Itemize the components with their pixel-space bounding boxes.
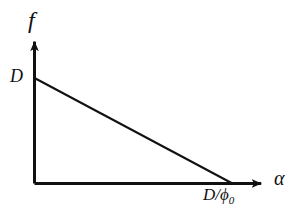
- plot-svg: [0, 0, 300, 220]
- y-axis-label: f: [28, 8, 35, 32]
- phi-symbol: ϕ: [220, 185, 229, 204]
- phi-subscript: 0: [229, 194, 235, 206]
- x-axis-label: α: [274, 168, 285, 188]
- x-intercept-numerator: D/: [203, 185, 220, 204]
- x-intercept-label: D/ϕ0: [203, 186, 234, 206]
- figure-canvas: f D α D/ϕ0: [0, 0, 300, 220]
- data-line: [35, 78, 233, 184]
- y-intercept-label: D: [10, 67, 23, 85]
